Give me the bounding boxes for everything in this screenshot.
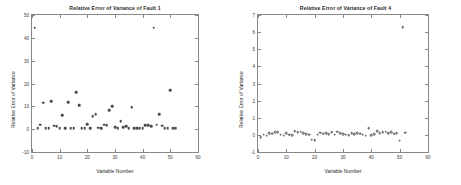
data-point [367, 127, 370, 130]
y-tick-label: -10 [16, 150, 29, 155]
data-point [75, 91, 78, 94]
plot-inner-fault-4: 0102030405060-101234567 [258, 15, 428, 152]
data-point [36, 127, 39, 130]
data-point [398, 140, 401, 143]
y-axis-title-fault-4: Relative Error of Variance [238, 71, 244, 128]
data-point [141, 127, 144, 130]
data-point [89, 127, 92, 130]
data-point [83, 127, 86, 130]
y-tick-fault-1 [32, 38, 35, 39]
plot-area-fault-4: 0102030405060-101234567 [257, 14, 429, 153]
figure-fault-4: Relative Error of Variance of Fault 4 01… [230, 0, 461, 185]
data-point [58, 127, 61, 130]
y-tick-label: 50 [16, 13, 29, 18]
data-point [364, 134, 367, 137]
data-point [67, 101, 70, 104]
x-tick-top-fault-4 [315, 15, 316, 18]
plot-area-fault-1: 0102030405060-1001020304050 [31, 14, 199, 153]
chart-title-fault-4: Relative Error of Variance of Fault 4 [230, 5, 461, 11]
x-tick-top-fault-1 [143, 15, 144, 18]
x-tick-top-fault-4 [343, 15, 344, 18]
data-point [119, 120, 122, 123]
x-tick-fault-4 [400, 149, 401, 152]
x-axis-title-fault-4: Variable Number [257, 168, 429, 174]
x-tick-fault-1 [143, 149, 144, 152]
y-tick-right-fault-4 [425, 118, 428, 119]
x-tick-fault-1 [198, 149, 199, 152]
y-tick-fault-1 [32, 84, 35, 85]
y-tick-right-fault-4 [425, 135, 428, 136]
x-tick-label: 50 [397, 155, 402, 160]
y-tick-right-fault-1 [195, 106, 198, 107]
y-tick-label: 10 [16, 104, 29, 109]
x-tick-label: 20 [85, 155, 90, 160]
data-point [78, 104, 81, 107]
x-tick-top-fault-4 [286, 15, 287, 18]
x-tick-fault-4 [286, 149, 287, 152]
y-tick-label: 20 [16, 81, 29, 86]
x-tick-fault-4 [371, 149, 372, 152]
y-axis-title-fault-1: Relative Error of Variance [10, 71, 16, 128]
data-point [105, 124, 108, 127]
x-tick-label: 60 [195, 155, 200, 160]
data-point [100, 127, 103, 130]
data-point [265, 134, 268, 137]
y-tick-fault-4 [258, 49, 261, 50]
y-tick-right-fault-4 [425, 66, 428, 67]
plot-inner-fault-1: 0102030405060-1001020304050 [32, 15, 198, 152]
figure-fault-1: Relative Error of Variance of Fault 1 01… [0, 0, 230, 185]
x-tick-label: 50 [168, 155, 173, 160]
data-point [175, 127, 178, 130]
x-tick-label: 20 [312, 155, 317, 160]
y-tick-right-fault-1 [195, 38, 198, 39]
x-tick-top-fault-4 [371, 15, 372, 18]
x-tick-fault-4 [315, 149, 316, 152]
data-point [291, 134, 294, 137]
data-point [373, 133, 376, 136]
x-axis-title-fault-1: Variable Number [31, 168, 199, 174]
y-tick-right-fault-4 [425, 32, 428, 33]
data-point [111, 105, 114, 108]
y-tick-label: 0 [16, 127, 29, 132]
y-tick-fault-4 [258, 118, 261, 119]
x-tick-top-fault-4 [400, 15, 401, 18]
chart-title-fault-1: Relative Error of Variance of Fault 1 [0, 5, 230, 11]
data-point [401, 26, 404, 29]
x-tick-fault-1 [115, 149, 116, 152]
x-tick-label: 60 [425, 155, 430, 160]
data-point [404, 132, 407, 135]
y-tick-label: 5 [242, 47, 255, 52]
data-point [150, 125, 153, 128]
y-tick-fault-1 [32, 106, 35, 107]
data-point [86, 123, 89, 126]
data-point [130, 106, 133, 109]
x-tick-label: 10 [284, 155, 289, 160]
y-tick-right-fault-4 [425, 15, 428, 16]
y-tick-right-fault-1 [195, 15, 198, 16]
x-tick-label: 30 [340, 155, 345, 160]
x-tick-top-fault-1 [60, 15, 61, 18]
data-point [333, 133, 336, 136]
y-tick-label: -1 [242, 150, 255, 155]
data-point [260, 136, 263, 139]
data-point [308, 133, 311, 136]
y-tick-fault-1 [32, 152, 35, 153]
y-tick-fault-4 [258, 15, 261, 16]
data-point [128, 127, 131, 130]
x-tick-top-fault-1 [170, 15, 171, 18]
x-tick-label: 40 [140, 155, 145, 160]
x-tick-label: 30 [112, 155, 117, 160]
y-tick-fault-1 [32, 15, 35, 16]
data-point [72, 127, 75, 130]
data-point [64, 127, 67, 130]
data-point [42, 101, 45, 104]
figure-row: Relative Error of Variance of Fault 1 01… [0, 0, 461, 185]
x-tick-fault-1 [60, 149, 61, 152]
data-point [313, 139, 316, 142]
y-tick-fault-4 [258, 101, 261, 102]
y-tick-label: 7 [242, 13, 255, 18]
y-tick-label: 0 [242, 132, 255, 137]
y-tick-right-fault-1 [195, 61, 198, 62]
x-tick-top-fault-1 [115, 15, 116, 18]
data-point [61, 114, 64, 117]
